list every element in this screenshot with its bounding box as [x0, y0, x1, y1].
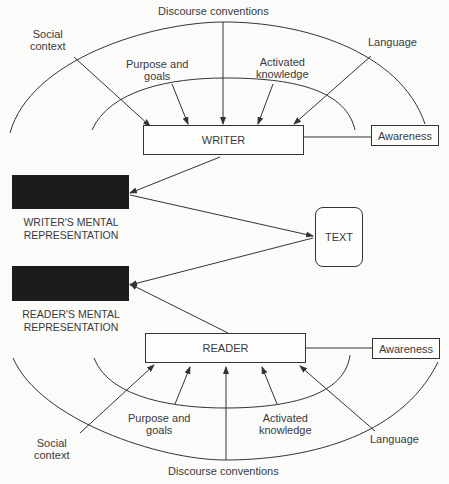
label-line: knowledge	[256, 68, 309, 80]
text-node: TEXT	[315, 207, 363, 267]
label-line: Social	[30, 28, 65, 40]
reader-mental-caption: READER'S MENTAL REPRESENTATION	[6, 308, 136, 334]
caption-line: READER'S MENTAL	[6, 308, 136, 321]
writer-label-social-context: Social context	[30, 28, 65, 52]
reader-mental-representation-block	[12, 266, 129, 301]
writer-label-language: Language	[368, 36, 417, 48]
reader-label-purpose-goals: Purpose and goals	[128, 412, 190, 436]
label-line: Social	[34, 437, 69, 449]
writer-label-discourse-conventions: Discourse conventions	[158, 5, 269, 17]
caption-line: WRITER'S MENTAL	[6, 216, 136, 229]
reader-label-discourse-conventions: Discourse conventions	[168, 465, 279, 477]
label-line: Purpose and	[128, 412, 190, 424]
writer-node: WRITER	[143, 125, 304, 155]
reader-awareness-box: Awareness	[372, 338, 440, 359]
label-line: Activated	[259, 412, 312, 424]
reader-label-social-context: Social context	[34, 437, 69, 461]
label-line: Activated	[256, 56, 309, 68]
label-line: knowledge	[259, 424, 312, 436]
writer-label-activated-knowledge: Activated knowledge	[256, 56, 309, 80]
writer-mental-caption: WRITER'S MENTAL REPRESENTATION	[6, 216, 136, 242]
reader-label-activated-knowledge: Activated knowledge	[259, 412, 312, 436]
writer-mental-representation-block	[12, 175, 129, 209]
caption-line: REPRESENTATION	[6, 321, 136, 334]
writer-outer-arc	[10, 22, 425, 133]
writer-awareness-box: Awareness	[371, 125, 439, 146]
label-line: context	[34, 449, 69, 461]
label-line: goals	[128, 424, 190, 436]
caption-line: REPRESENTATION	[6, 229, 136, 242]
writer-label-purpose-goals: Purpose and goals	[126, 58, 188, 82]
label-line: context	[30, 40, 65, 52]
reader-label-language: Language	[370, 433, 419, 445]
label-line: goals	[126, 70, 188, 82]
reader-node: READER	[145, 333, 306, 363]
label-line: Purpose and	[126, 58, 188, 70]
diagram-lines	[0, 0, 449, 484]
